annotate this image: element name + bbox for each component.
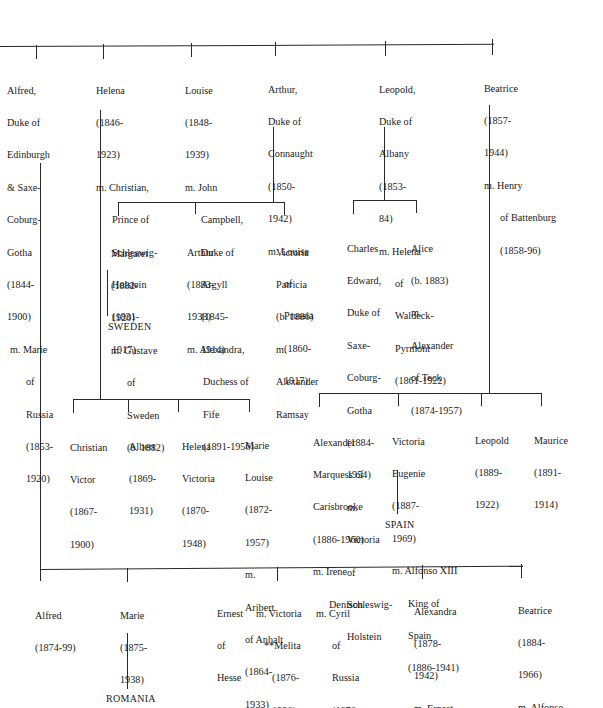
- connector-louise: [191, 43, 192, 57]
- connector-alexander: [319, 393, 320, 407]
- person-alexandra: Alexandra (1878- 1942) m. Ernest of Hohe…: [414, 585, 479, 708]
- person-marie-of-romania: Marie (1875- 1938) m. Ferdinand King of …: [120, 589, 174, 708]
- connector-helena: [103, 44, 104, 59]
- person-leopold-of-battenburg: Leopold (1889- 1922): [475, 414, 509, 522]
- person-alfred-jr: Alfred (1874-99): [35, 589, 76, 665]
- person-victoria-melita: m. Victoria **Melita (1876- 1936) (div. …: [256, 587, 302, 708]
- connector-beatrice: [492, 39, 493, 55]
- person-helena-victoria: Helena Victoria (1870- 1948): [182, 420, 215, 560]
- person-christian-victor: Christian Victor (1867- 1900): [70, 421, 107, 561]
- person-alice: Alice (b. 1883) m. Alexander of Teck (18…: [411, 222, 462, 427]
- country-label-sweden: SWEDEN: [108, 321, 151, 332]
- connector-e-beatrice: [521, 564, 522, 578]
- country-label-romania: ROMANIA: [106, 693, 156, 704]
- connector-maurice: [541, 393, 542, 406]
- person-alfred-duke-of-edinburgh: Alfred, Duke of Edinburgh & Saxe- Coburg…: [7, 64, 53, 496]
- top-sibling-bar: [0, 44, 494, 48]
- person-ernest-of-hesse: Ernest of Hesse: [217, 587, 243, 695]
- person-maurice: Maurice (1891- 1914): [534, 414, 568, 522]
- person-beatrice: Beatrice (1857- 1944) m. Henry of Batten…: [484, 62, 556, 267]
- country-label-spain: SPAIN: [385, 519, 414, 530]
- connector-helena-victoria: [178, 399, 179, 412]
- connector-alfred: [36, 45, 37, 59]
- person-beatrice-of-edinburgh: Beatrice (1884- 1966) m. Alfonso of Spai…: [518, 584, 568, 708]
- connector-christian-victor: [73, 399, 74, 413]
- person-albert: Albert (1869- 1931): [129, 420, 156, 528]
- connector-arthur: [275, 42, 276, 56]
- person-cyril-of-russia: m. Cyril of Russia (1876- 1938): [316, 587, 359, 708]
- connector-leopold: [385, 41, 386, 56]
- person-victoria-patricia: Victoria Patricia (b. 1886) m. Alexander…: [276, 226, 318, 431]
- connector-leopold-jr: [481, 393, 482, 406]
- connector-charles-edward: [353, 200, 354, 214]
- connector-e-alfred: [40, 569, 41, 581]
- connector-e-marie: [127, 568, 128, 582]
